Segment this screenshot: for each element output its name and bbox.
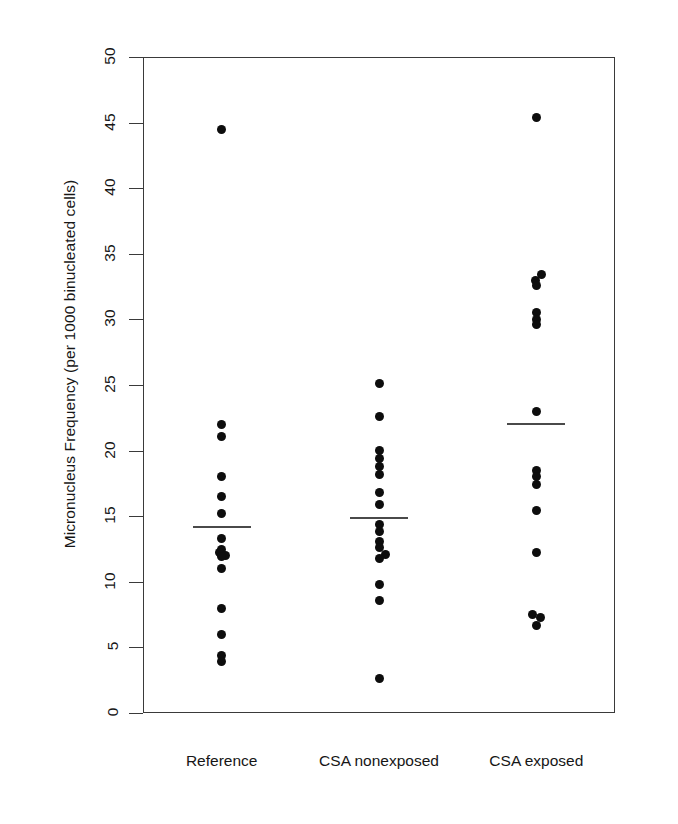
data-point — [375, 470, 384, 479]
y-axis-tick — [129, 647, 143, 648]
y-axis-tick-label-text: 20 — [100, 441, 118, 458]
y-axis-tick-label: 45 — [0, 113, 118, 131]
y-axis-tick-label: 25 — [0, 375, 118, 393]
data-point — [532, 621, 541, 630]
y-axis-tick-label-text: 45 — [100, 113, 118, 130]
y-axis-tick — [129, 385, 143, 386]
y-axis-tick — [129, 254, 143, 255]
y-axis-tick-label: 35 — [0, 244, 118, 262]
y-axis-tick-label: 15 — [0, 506, 118, 524]
y-axis-tick-label: 50 — [0, 47, 118, 65]
data-point — [375, 554, 384, 563]
y-axis-tick-label: 20 — [0, 441, 118, 459]
y-axis-tick — [129, 582, 143, 583]
data-point — [375, 580, 384, 589]
y-axis-tick — [129, 713, 143, 714]
x-axis-category-label: CSA nonexposed — [319, 752, 439, 770]
y-axis-tick-label-text: 40 — [100, 179, 118, 196]
data-point — [375, 488, 384, 497]
data-point — [375, 674, 384, 683]
y-axis-tick-label: 40 — [0, 178, 118, 196]
y-axis-tick-label: 30 — [0, 309, 118, 327]
data-point — [375, 527, 384, 536]
y-axis-tick-label-text: 35 — [100, 244, 118, 261]
y-axis-tick — [129, 57, 143, 58]
y-axis-tick-label-text: 50 — [100, 47, 118, 64]
data-point — [217, 420, 226, 429]
data-point — [375, 500, 384, 509]
x-axis-category-label: Reference — [186, 752, 258, 770]
data-point — [217, 630, 226, 639]
y-axis-tick-label: 10 — [0, 572, 118, 590]
data-point — [217, 125, 226, 134]
mean-line — [507, 423, 565, 425]
data-point — [375, 379, 384, 388]
data-point — [532, 113, 541, 122]
data-point — [532, 320, 541, 329]
data-point — [532, 480, 541, 489]
data-point — [217, 604, 226, 613]
y-axis-tick-label-text: 0 — [105, 708, 123, 717]
y-axis-tick — [129, 123, 143, 124]
y-axis-tick-label: 0 — [0, 703, 118, 721]
y-axis-tick — [129, 188, 143, 189]
y-axis-tick-label-text: 5 — [105, 642, 123, 651]
x-axis-category-label: CSA exposed — [489, 752, 583, 770]
scatter-plot-figure: Micronucleus Frequency (per 1000 binucle… — [0, 0, 678, 824]
y-axis-tick-label-text: 10 — [100, 572, 118, 589]
y-axis-tick-label: 5 — [0, 637, 118, 655]
data-point — [375, 412, 384, 421]
data-point — [375, 596, 384, 605]
y-axis-tick-label-text: 30 — [100, 310, 118, 327]
y-axis-tick — [129, 319, 143, 320]
data-point — [217, 432, 226, 441]
data-point — [532, 407, 541, 416]
mean-line — [350, 517, 408, 519]
y-axis-tick-label-text: 15 — [100, 507, 118, 524]
y-axis-tick — [129, 451, 143, 452]
mean-line — [193, 526, 251, 528]
data-point — [532, 281, 541, 290]
y-axis-tick-label-text: 25 — [100, 375, 118, 392]
y-axis-tick — [129, 516, 143, 517]
